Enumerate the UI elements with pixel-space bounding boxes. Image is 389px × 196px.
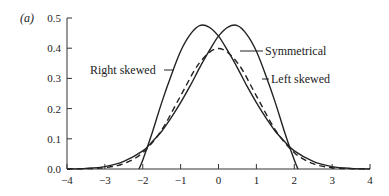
y-tick-label: 0.1 (47, 133, 61, 145)
x-tick-label: 2 (292, 174, 298, 186)
y-tick-label: 0.5 (47, 12, 61, 24)
x-tick-label: 0 (216, 174, 222, 186)
y-tick-label: 0.2 (47, 103, 61, 115)
y-tick-label: 0.4 (47, 42, 61, 54)
y-tick-label: 0.0 (47, 163, 61, 175)
distribution-chart: (a) 0.00.10.20.30.40.5−4−3−2−101234 Righ… (0, 0, 389, 196)
y-tick-label: 0.3 (47, 72, 61, 84)
x-tick-label: 4 (367, 174, 373, 186)
x-tick-label: −3 (99, 174, 111, 186)
annotation-label: Left skewed (271, 72, 330, 86)
annotation-label: Symmetrical (265, 44, 327, 58)
x-tick-label: −2 (137, 174, 149, 186)
x-tick-label: 3 (329, 174, 335, 186)
axes: 0.00.10.20.30.40.5−4−3−2−101234 (47, 12, 373, 186)
x-tick-label: −1 (175, 174, 187, 186)
annotation-label: Right skewed (90, 63, 156, 77)
x-tick-label: 1 (254, 174, 260, 186)
panel-label: (a) (20, 11, 34, 25)
x-tick-label: −4 (61, 174, 73, 186)
